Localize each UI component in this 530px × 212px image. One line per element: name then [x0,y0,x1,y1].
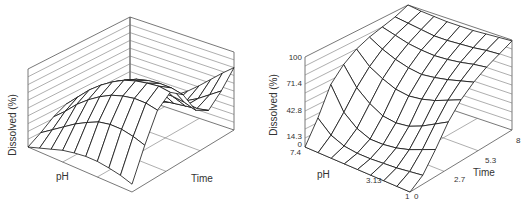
x-tick-7-4: 7.4 [290,148,302,157]
left-surface-svg: Dissolved (%) pH Time [0,0,265,212]
right-surface-plot: Dissolved (%) 100 71.4 42.8 14.3 0 7.4 3… [265,0,530,212]
x-tick-1: 1 [405,192,410,201]
z-tick-71-4: 71.4 [286,79,302,88]
x-axis-label: pH [317,169,330,180]
y-tick-0: 0 [414,192,419,201]
x-axis-label: pH [56,171,69,182]
z-axis-label: Dissolved (%) [7,94,18,156]
right-surface-svg: Dissolved (%) 100 71.4 42.8 14.3 0 7.4 3… [265,0,530,212]
z-tick-100: 100 [289,53,303,62]
y-tick-5-3: 5.3 [485,156,497,165]
y-axis-label: Time [473,167,495,178]
y-tick-8: 8 [516,136,521,145]
surface-mesh [305,5,512,192]
surface-mesh [28,68,234,185]
left-surface-plot: Dissolved (%) pH Time [0,0,265,212]
y-tick-2-7: 2.7 [454,175,466,184]
y-axis-label: Time [191,173,213,184]
z-tick-42-8: 42.8 [286,106,302,115]
z-axis-label: Dissolved (%) [268,74,279,136]
x-tick-3-13: 3.13 [366,176,382,185]
